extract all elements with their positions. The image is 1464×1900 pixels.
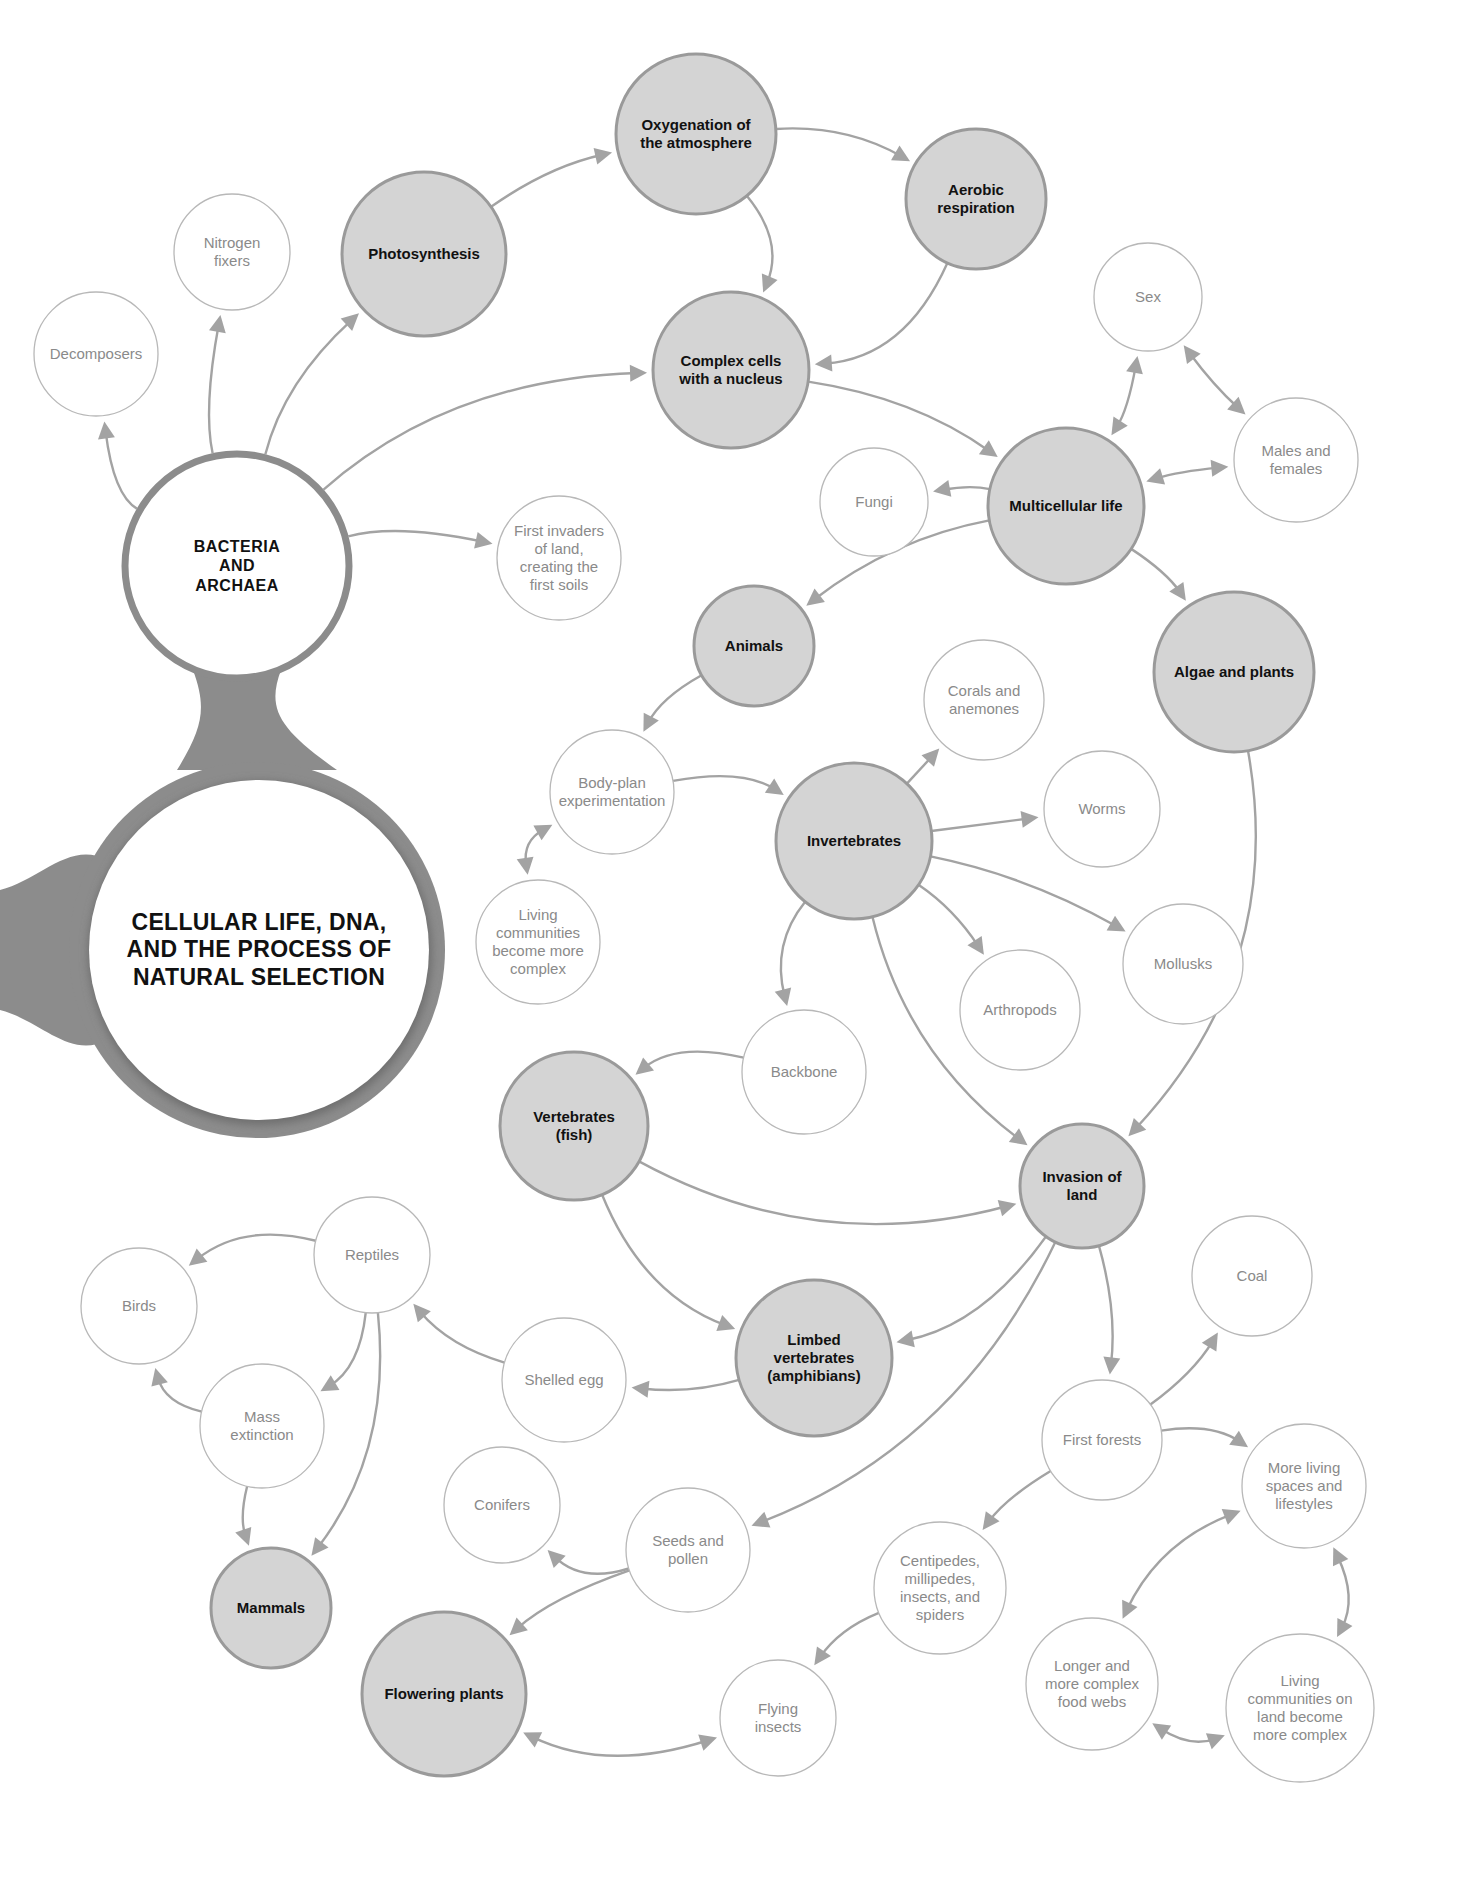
arrowhead-icon: [1126, 356, 1143, 374]
arrow-shelled-to-reptiles: [413, 1304, 504, 1363]
node-label-livingland: Living communities on land become more c…: [1235, 1634, 1365, 1782]
node-label-corals: Corals and anemones: [932, 640, 1037, 760]
node-label-reptiles: Reptiles: [321, 1197, 423, 1313]
node-label-coal: Coal: [1200, 1216, 1305, 1336]
node-label-invaders: First invaders of land, creating the fir…: [505, 496, 614, 620]
arrow-line: [906, 1236, 1046, 1340]
arrowhead-icon: [98, 421, 115, 439]
arrow-photosynthesis-to-oxygenation: [491, 148, 612, 207]
arrow-seeds-to-conifers: [548, 1550, 629, 1574]
arrowhead-icon: [1211, 460, 1229, 477]
root-title: CELLULAR LIFE, DNA, AND THE PROCESS OF N…: [107, 890, 411, 1010]
arrow-line: [532, 1737, 707, 1756]
arrowhead-icon: [1152, 1723, 1171, 1739]
node-label-limbed: Limbed vertebrates (amphibians): [746, 1280, 883, 1436]
arrow-line: [517, 1570, 629, 1628]
arrow-line: [209, 325, 219, 454]
arrow-seeds-to-flowering: [510, 1570, 630, 1635]
node-label-livingcomm: Living communities become more complex: [484, 880, 593, 1004]
arrowhead-icon: [1009, 1128, 1028, 1145]
arrow-line: [348, 531, 483, 542]
node-label-birds: Birds: [88, 1248, 190, 1364]
arrow-line: [197, 1235, 316, 1260]
node-label-decomposers: Decomposers: [42, 292, 151, 416]
hub-bacteria-archaea-label: BACTERIA AND ARCHAEA: [167, 516, 307, 616]
arrow-animals-to-bodyplan: [643, 675, 701, 732]
arrow-line: [639, 1161, 1007, 1224]
arrow-flowering-to-flying: [523, 1732, 717, 1756]
arrowhead-icon: [1021, 811, 1039, 828]
node-label-conifers: Conifers: [451, 1447, 553, 1563]
arrow-line: [1131, 549, 1180, 593]
arrow-bacteria-to-decomposers: [98, 421, 137, 508]
arrow-oxygenation-to-aerobic: [776, 128, 910, 161]
arrow-line: [648, 675, 702, 723]
arrow-invertebrates-to-arthropods: [919, 885, 984, 955]
node-label-fungi: Fungi: [827, 448, 922, 556]
arrowhead-icon: [630, 365, 647, 382]
arrowhead-icon: [474, 532, 492, 549]
arrow-line: [1190, 353, 1238, 408]
node-label-backbone: Backbone: [750, 1010, 859, 1134]
node-label-mammals: Mammals: [219, 1548, 324, 1668]
arrow-forests-to-coal: [1150, 1332, 1217, 1404]
arrowhead-icon: [517, 857, 534, 875]
arrow-sex-to-males: [1184, 345, 1246, 414]
arrow-multicellular-to-fungi: [933, 480, 990, 497]
arrowhead-icon: [209, 315, 226, 333]
arrow-line: [673, 776, 775, 789]
node-label-bodyplan: Body-plan experimentation: [558, 730, 667, 854]
hub-neck: [177, 670, 337, 770]
node-label-arthropods: Arthropods: [968, 950, 1073, 1070]
node-label-centipedes: Centipedes, millipedes, insects, and spi…: [882, 1522, 998, 1654]
node-label-multicellular: Multicellular life: [998, 428, 1135, 584]
arrowhead-icon: [998, 1200, 1017, 1216]
arrow-line: [420, 1311, 505, 1362]
node-label-males: Males and females: [1242, 398, 1351, 522]
arrow-line: [1127, 1514, 1231, 1610]
node-label-animals: Animals: [702, 586, 807, 706]
arrow-line: [643, 1052, 744, 1069]
node-label-worms: Worms: [1051, 751, 1153, 867]
arrowhead-icon: [896, 1331, 914, 1348]
arrow-bacteria-to-invaders: [348, 531, 492, 549]
arrow-reptiles-to-birds: [189, 1235, 316, 1266]
arrow-line: [825, 263, 948, 364]
arrow-limbed-to-shelled: [632, 1380, 740, 1398]
arrowhead-icon: [815, 355, 833, 372]
arrow-line: [1156, 468, 1218, 479]
arrowhead-icon: [933, 480, 951, 497]
arrow-line: [329, 1313, 366, 1387]
node-label-complex: Complex cells with a nucleus: [663, 292, 800, 448]
arrowhead-icon: [632, 1381, 650, 1398]
arrowhead-icon: [1103, 1357, 1120, 1375]
arrowhead-icon: [698, 1735, 717, 1751]
arrow-line: [642, 1380, 740, 1390]
arrow-line: [555, 1557, 629, 1574]
arrow-line: [491, 155, 602, 207]
arrowhead-icon: [979, 440, 998, 457]
arrow-line: [989, 1471, 1051, 1522]
arrow-complex-to-multicellular: [808, 382, 998, 457]
arrow-vertebrates-to-invasion: [639, 1161, 1016, 1224]
arrowhead-icon: [594, 148, 612, 165]
arrow-bacteria-to-photosynthesis: [265, 313, 359, 454]
concept-map: CELLULAR LIFE, DNA, AND THE PROCESS OF N…: [0, 0, 1464, 1900]
arrow-line: [820, 1613, 879, 1657]
node-label-shelled: Shelled egg: [510, 1318, 619, 1442]
node-label-foodwebs: Longer and more complex food webs: [1034, 1618, 1150, 1750]
arrow-foodwebs-to-livingland: [1152, 1723, 1225, 1749]
arrow-line: [318, 1313, 381, 1548]
arrow-reptiles-to-mass: [320, 1313, 365, 1392]
arrow-moreliving-to-foodwebs: [1122, 1509, 1240, 1619]
arrow-forests-to-moreliving: [1161, 1428, 1248, 1447]
node-label-moreliving: More living spaces and lifestyles: [1250, 1424, 1359, 1548]
arrow-mass-to-mammals: [235, 1486, 251, 1546]
node-label-oxygenation: Oxygenation of the atmosphere: [626, 54, 766, 214]
arrowhead-icon: [765, 779, 784, 795]
arrow-invertebrates-to-worms: [931, 811, 1038, 831]
arrow-bodyplan-to-livingcomm: [517, 825, 553, 875]
arrow-multicellular-to-sex: [1111, 356, 1142, 435]
node-label-flowering: Flowering plants: [372, 1612, 516, 1776]
arrowhead-icon: [151, 1368, 167, 1387]
